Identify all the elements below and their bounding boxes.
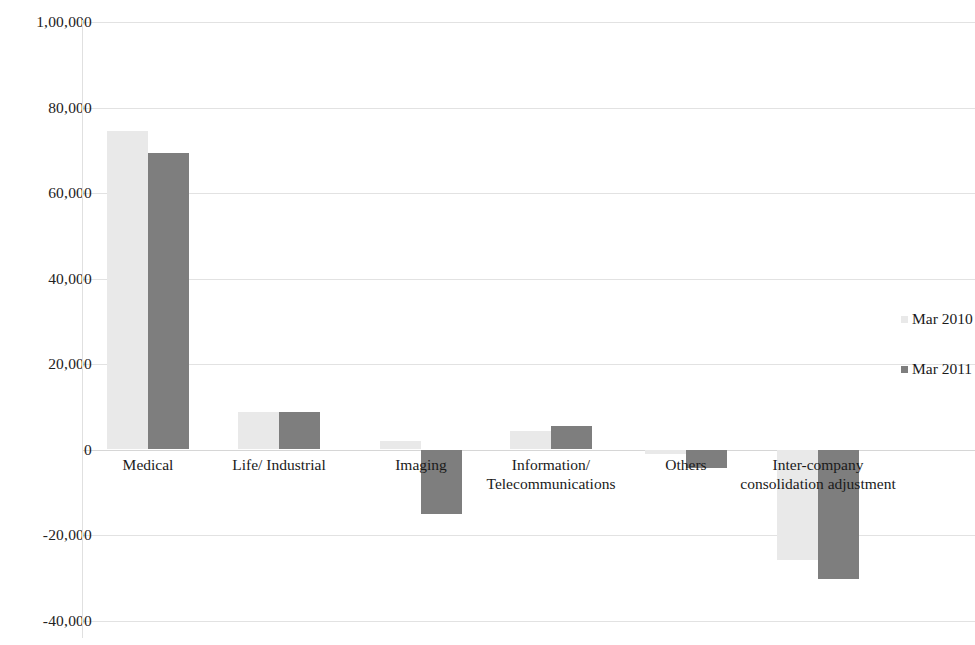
bar bbox=[645, 450, 686, 455]
bar bbox=[551, 426, 592, 450]
x-tick-label: Inter-company consolidation adjustment bbox=[708, 455, 928, 493]
legend-swatch-icon bbox=[901, 316, 908, 323]
bar bbox=[148, 153, 189, 449]
legend-label: Mar 2010 bbox=[912, 310, 973, 328]
bar bbox=[238, 412, 279, 450]
legend-swatch-icon bbox=[901, 366, 908, 373]
bar bbox=[107, 131, 148, 449]
plot-area bbox=[0, 0, 975, 645]
legend-item[interactable]: Mar 2010 bbox=[901, 310, 973, 328]
bar bbox=[279, 412, 320, 450]
legend-item[interactable]: Mar 2011 bbox=[901, 360, 972, 378]
bar bbox=[380, 441, 421, 450]
bar-chart: 1,00,00080,00060,00040,00020,0000-20,000… bbox=[0, 0, 975, 645]
legend-label: Mar 2011 bbox=[912, 360, 972, 378]
bar bbox=[510, 431, 551, 450]
